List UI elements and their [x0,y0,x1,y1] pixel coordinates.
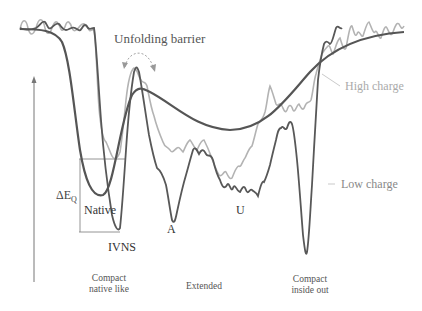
a-label: A [167,222,176,237]
delta-e-subscript: Q [71,195,77,204]
delta-e-label: ΔEQ [56,188,77,204]
u-label: U [236,203,245,218]
energy-landscape-diagram [0,0,422,311]
energy-axis [32,76,37,282]
native-label: Native [84,203,116,218]
region-extended: Extended [186,281,222,292]
low-charge-label: Low charge [341,177,398,192]
region-compact-inside-out: Compact inside out [288,274,332,296]
barrier-arrow [122,53,156,72]
unfolding-barrier-label: Unfolding barrier [114,31,205,47]
region-compact-inside-line1: Compact [288,274,332,285]
smooth-curve [20,29,404,195]
region-compact-native: Compact native like [84,273,134,295]
high-charge-label: High charge [345,79,404,94]
high-charge-curve [20,20,404,179]
ivns-label: IVNS [108,240,136,255]
high-charge-leader [322,74,340,86]
region-compact-inside-line2: inside out [288,285,332,296]
region-compact-native-line2: native like [84,284,134,295]
region-compact-native-line1: Compact [84,273,134,284]
low-charge-curve [20,22,342,254]
delta-e-symbol: ΔE [56,188,71,202]
